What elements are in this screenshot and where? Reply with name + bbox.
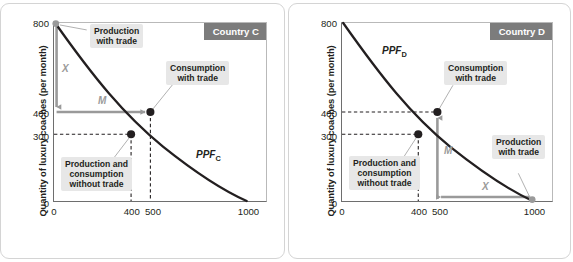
ppf-label-d: PPFD (382, 45, 407, 59)
leader-consumption-right (439, 85, 453, 109)
leader-autarky-left (113, 138, 129, 159)
y-tick-800-left: 800 (33, 18, 49, 29)
import-flow-label-right: M (444, 145, 452, 156)
y-tick-300-left: 300 (33, 130, 49, 141)
callout-consumption-with-trade-right: Consumption with trade (444, 61, 507, 85)
import-flow-label-left: M (98, 95, 106, 106)
export-flow-label-right: X (482, 181, 489, 192)
callout-production-with-trade-right: Production with trade (492, 135, 545, 159)
chart-panel-country-d: Quantity of luxury coaches (per month) Q… (288, 3, 571, 259)
ppf-label-c-text: PPF (196, 149, 215, 160)
y-tick-300-right: 300 (321, 130, 337, 141)
callout-autarky-left: Production and consumption without trade (61, 157, 132, 191)
leader-consumption-left (152, 84, 173, 110)
point-consumption-with-trade-right (433, 108, 441, 116)
leader-production-left (60, 25, 87, 30)
ppf-label-c: PPFC (196, 149, 221, 163)
callout-autarky-right: Production and consumption without trade (349, 156, 420, 190)
x-tick-0-left: 0 (51, 206, 56, 217)
ppf-label-c-sub: C (215, 154, 220, 163)
y-tick-0-left: 0 (44, 198, 49, 209)
x-tick-1000-right: 1000 (524, 206, 545, 217)
y-tick-800-right: 800 (321, 18, 337, 29)
ppf-label-d-sub: D (401, 50, 406, 59)
plot-area-right: 800 400 300 0 0 400 500 1000 (341, 22, 553, 202)
export-flow-label-left: X (62, 63, 69, 74)
x-tick-500-right: 500 (432, 206, 448, 217)
chart-panel-country-c: Quantity of luxury coaches (per month) Q… (0, 3, 285, 259)
point-autarky-right (414, 130, 422, 138)
x-tick-400-right: 400 (411, 206, 427, 217)
figure-container: Quantity of luxury coaches (per month) Q… (0, 0, 573, 262)
x-tick-1000-left: 1000 (238, 206, 259, 217)
point-production-with-trade-right (529, 196, 536, 203)
point-consumption-with-trade-left (146, 108, 154, 116)
country-badge-c: Country C (204, 23, 266, 40)
country-badge-d: Country D (490, 23, 552, 40)
y-tick-0-right: 0 (332, 198, 337, 209)
point-autarky-left (127, 130, 135, 138)
callout-consumption-with-trade-left: Consumption with trade (166, 61, 229, 85)
ppf-label-d-text: PPF (382, 45, 401, 56)
y-tick-400-left: 400 (33, 108, 49, 119)
callout-production-with-trade-left: Production with trade (90, 24, 143, 48)
x-tick-500-left: 500 (145, 206, 161, 217)
x-tick-0-right: 0 (339, 206, 344, 217)
x-tick-400-left: 400 (124, 206, 140, 217)
plot-area-left: 800 400 300 0 0 400 500 1000 (53, 22, 267, 202)
y-tick-400-right: 400 (321, 108, 337, 119)
leader-autarky-right (403, 138, 416, 158)
point-production-with-trade-left (52, 20, 59, 27)
